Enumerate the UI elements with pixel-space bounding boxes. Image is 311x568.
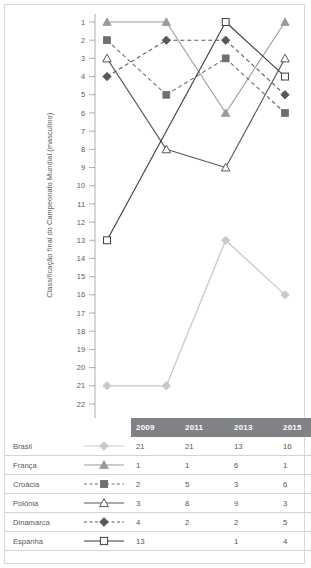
y-axis-tick-label: 16 (77, 290, 85, 299)
y-axis-tick-label: 18 (77, 327, 85, 336)
y-axis-tick-label: 9 (81, 163, 85, 172)
y-axis-tick-label: 22 (77, 400, 85, 409)
series-line (166, 240, 225, 386)
row-value-2015: 6 (278, 475, 311, 494)
series-line (226, 22, 285, 113)
series-line (107, 40, 166, 95)
y-axis-tick-label: 20 (77, 363, 85, 372)
table-row: Croácia2536 (5, 475, 311, 494)
table-row: Polônia3893 (5, 494, 311, 513)
y-axis-tick-label: 8 (81, 145, 85, 154)
series-brasil (103, 236, 289, 390)
row-country-label: Croácia (5, 475, 76, 494)
row-legend-swatch (76, 475, 131, 494)
y-axis-tick-label: 19 (77, 345, 85, 354)
row-value-2011: 5 (180, 475, 229, 494)
row-value-2009: 4 (131, 513, 180, 532)
marker-diamond (103, 382, 111, 390)
row-legend-swatch (76, 456, 131, 475)
legend-marker-triangle-open (81, 496, 127, 510)
y-axis-tick-label: 1 (81, 18, 85, 27)
row-value-2013: 3 (229, 475, 278, 494)
row-value-2009: 13 (131, 532, 180, 551)
header-country (5, 418, 76, 437)
legend-marker-square-filled (81, 477, 127, 491)
table-head: 2009 2011 2013 2015 (5, 418, 311, 437)
row-value-2011: 8 (180, 494, 229, 513)
y-axis-tick-label: 3 (81, 54, 85, 63)
row-value-2013: 13 (229, 437, 278, 456)
y-axis-tick-label: 4 (81, 72, 85, 81)
y-axis-tick-label: 10 (77, 181, 85, 190)
marker-square (104, 37, 111, 44)
row-legend-swatch (76, 494, 131, 513)
row-value-2015: 16 (278, 437, 311, 456)
line-chart: 12345678910111213141516171819202122 Clas… (0, 0, 311, 430)
series-line (107, 58, 166, 149)
row-value-2015: 5 (278, 513, 311, 532)
row-value-2015: 1 (278, 456, 311, 475)
row-value-2011: 1 (180, 456, 229, 475)
marker-square-open (104, 237, 111, 244)
y-axis-tick-label: 11 (77, 200, 85, 209)
series-line (166, 22, 225, 113)
series-line (107, 40, 166, 76)
marker-triangle-open (162, 145, 170, 153)
row-country-label: Brasil (5, 437, 76, 456)
y-axis-tick-label: 7 (81, 127, 85, 136)
y-axis-tick-label: 6 (81, 109, 85, 118)
row-value-2011 (180, 532, 229, 551)
table-header-row: 2009 2011 2013 2015 (5, 418, 311, 437)
y-axis-tick-label: 21 (77, 381, 85, 390)
row-value-2009: 2 (131, 475, 180, 494)
header-2009: 2009 (131, 418, 180, 437)
row-value-2009: 21 (131, 437, 180, 456)
table-row: Espanha1314 (5, 532, 311, 551)
chart-page: 12345678910111213141516171819202122 Clas… (0, 0, 311, 568)
row-value-2013: 9 (229, 494, 278, 513)
row-value-2013: 6 (229, 456, 278, 475)
legend-marker-triangle-filled (81, 458, 127, 472)
marker-square (163, 91, 170, 98)
marker-diamond (221, 36, 229, 44)
y-axis-tick-label: 14 (77, 254, 85, 263)
series-line (166, 149, 225, 167)
y-axis-tick-label: 15 (77, 272, 85, 281)
series-polnia (103, 54, 289, 171)
row-legend-swatch (76, 513, 131, 532)
row-legend-swatch (76, 532, 131, 551)
row-value-2015: 3 (278, 494, 311, 513)
y-axis-tick-label: 2 (81, 36, 85, 45)
table-row: Brasil21211316 (5, 437, 311, 456)
marker-diamond (103, 72, 111, 80)
marker-square-open (222, 19, 229, 26)
row-value-2011: 2 (180, 513, 229, 532)
y-axis-tick-label: 5 (81, 90, 85, 99)
marker-square-open (282, 73, 289, 80)
marker-triangle-open (281, 54, 289, 62)
row-country-label: Espanha (5, 532, 76, 551)
marker-square (282, 110, 289, 117)
legend-marker-diamond-filled (81, 439, 127, 453)
row-value-2009: 3 (131, 494, 180, 513)
header-marker (76, 418, 131, 437)
row-country-label: França (5, 456, 76, 475)
table-row: Dinamarca4225 (5, 513, 311, 532)
row-value-2015: 4 (278, 532, 311, 551)
chart-canvas: 12345678910111213141516171819202122 (0, 0, 311, 430)
row-value-2013: 1 (229, 532, 278, 551)
legend-marker-square-open (81, 534, 127, 548)
table-row: França1161 (5, 456, 311, 475)
row-value-2011: 21 (180, 437, 229, 456)
y-axis-tick-label: 17 (77, 309, 85, 318)
header-2015: 2015 (278, 418, 311, 437)
marker-diamond (281, 91, 289, 99)
row-value-2009: 1 (131, 456, 180, 475)
table-body: Brasil21211316França1161Croácia2536Polôn… (5, 437, 311, 551)
marker-diamond (162, 382, 170, 390)
data-table-wrap: 2009 2011 2013 2015 Brasil21211316França… (5, 418, 305, 551)
series-line (226, 240, 285, 295)
header-2011: 2011 (180, 418, 229, 437)
marker-triangle-open (103, 54, 111, 62)
marker-triangle (281, 18, 289, 26)
